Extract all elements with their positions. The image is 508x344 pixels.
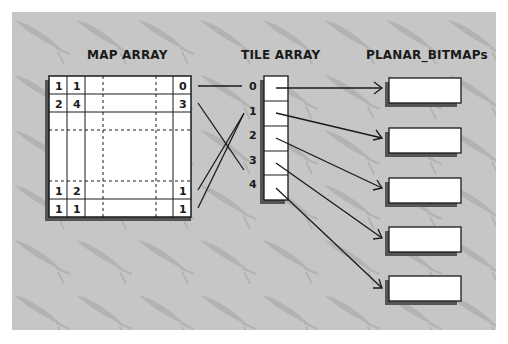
bitmap-box-4 bbox=[389, 276, 461, 301]
map-cell: 0 bbox=[179, 80, 187, 93]
tile-index: 0 bbox=[249, 80, 257, 93]
map-to-tile-lines bbox=[198, 86, 244, 208]
bitmap-box-0 bbox=[389, 78, 461, 103]
tile-index: 3 bbox=[249, 154, 257, 167]
diagram-canvas: MAP ARRAY TILE ARRAY PLANAR_BITMAPs 1 1 … bbox=[12, 12, 496, 330]
bitmap-box-1 bbox=[389, 128, 461, 153]
map-cell: 3 bbox=[179, 98, 187, 111]
map-cell: 1 bbox=[55, 80, 63, 93]
diagram-graphics: 1 1 0 2 4 3 1 2 1 1 1 1 0 1 2 3 4 bbox=[12, 12, 496, 330]
arrow-tile-2 bbox=[276, 138, 382, 188]
bitmap-box-2 bbox=[389, 178, 461, 203]
arrow-tile-3 bbox=[276, 163, 382, 238]
map-array-grid bbox=[49, 76, 191, 217]
arrow-tile-1 bbox=[276, 113, 382, 138]
tile-index: 4 bbox=[249, 178, 257, 191]
map-cell: 1 bbox=[55, 203, 63, 216]
bitmap-box-3 bbox=[389, 227, 461, 252]
map-cell: 2 bbox=[55, 98, 63, 111]
map-cell: 1 bbox=[179, 185, 187, 198]
arrow-tile-4 bbox=[276, 188, 382, 288]
tile-index: 1 bbox=[249, 105, 257, 118]
tile-index-labels: 0 1 2 3 4 bbox=[249, 80, 257, 191]
map-cell: 1 bbox=[55, 185, 63, 198]
map-cell: 1 bbox=[73, 80, 81, 93]
map-cell: 1 bbox=[73, 203, 81, 216]
tile-to-bitmap-arrows bbox=[276, 82, 382, 288]
tile-index: 2 bbox=[249, 129, 257, 142]
map-cell: 1 bbox=[179, 203, 187, 216]
line-map-1a-to-tile-1 bbox=[198, 115, 243, 190]
map-cell: 4 bbox=[73, 98, 81, 111]
planar-bitmaps bbox=[385, 78, 461, 305]
map-cell: 2 bbox=[73, 185, 81, 198]
